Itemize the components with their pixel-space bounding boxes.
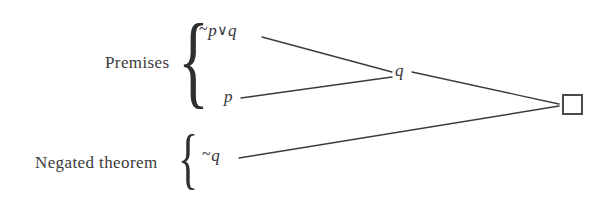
node-not-p-or-q: ~p∨q <box>199 21 236 41</box>
negation-symbol: ~ <box>202 145 211 162</box>
disjunction-symbol: ∨ <box>217 23 228 38</box>
node-variable-p: p <box>208 21 217 40</box>
node-p: p <box>224 87 233 107</box>
empty-clause-box <box>562 94 583 115</box>
negation-symbol: ~ <box>199 20 208 37</box>
group-label-negated-theorem: Negated theorem <box>35 153 158 173</box>
edge-not-q-to-empty-clause <box>239 106 559 158</box>
edge-not-p-or-q-to-q <box>262 37 392 72</box>
node-variable-q: q <box>228 21 237 40</box>
resolution-proof-diagram: Premises { Negated theorem { ~p∨q p q ~q <box>0 0 608 206</box>
edge-q-to-empty-clause <box>412 72 559 104</box>
node-not-q: ~q <box>202 146 220 166</box>
brace-negated-theorem: { <box>178 124 198 192</box>
node-variable-q: q <box>211 146 220 165</box>
edges-layer <box>0 0 608 206</box>
edge-p-to-q <box>241 77 392 98</box>
node-q: q <box>395 61 404 81</box>
group-label-premises: Premises <box>105 53 170 73</box>
